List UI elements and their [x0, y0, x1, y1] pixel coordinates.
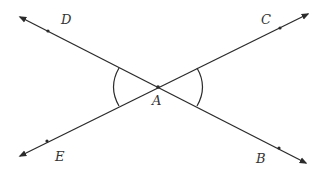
- point-C-dot: [278, 26, 281, 29]
- angle-arc-left: [114, 68, 120, 106]
- label-C: C: [261, 12, 271, 27]
- line-DB: [20, 17, 306, 163]
- label-A: A: [151, 93, 161, 108]
- line-EC: [20, 14, 308, 156]
- label-B: B: [255, 151, 266, 166]
- angle-arc-right: [197, 68, 203, 106]
- label-E: E: [54, 149, 65, 164]
- intersecting-lines-diagram: D C E B A: [0, 0, 325, 173]
- label-D: D: [60, 12, 72, 27]
- point-E-dot: [45, 139, 48, 142]
- point-B-dot: [277, 146, 280, 149]
- diagram-canvas: D C E B A: [0, 0, 325, 173]
- point-D-dot: [46, 29, 49, 32]
- point-A-dot: [156, 85, 160, 89]
